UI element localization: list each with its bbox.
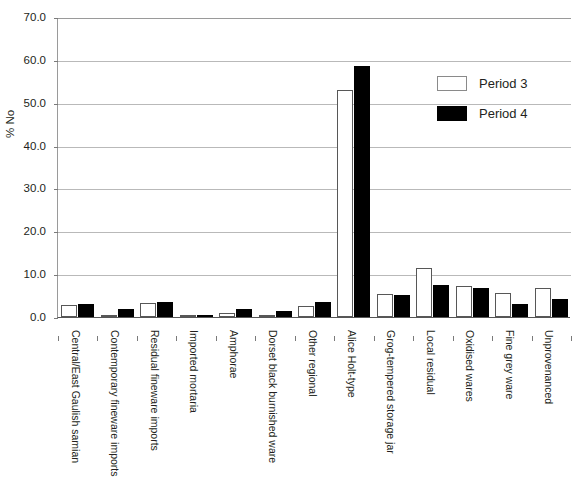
bar-period-3 [180,315,196,317]
y-axis-title: % No [4,110,16,138]
x-axis-category-label: Dorset black burnished ware [268,330,279,463]
gridline [58,232,571,233]
x-axis-tick-mark [58,336,59,341]
bar-period-4 [78,304,94,317]
y-axis-tick-mark [54,104,58,105]
bar-period-3 [298,306,314,317]
bar-period-4 [394,295,410,317]
x-axis-tick-mark [453,336,454,341]
y-axis-tick-mark [54,61,58,62]
gridline [58,189,571,190]
x-axis-category-label: Amphorae [228,330,239,378]
x-axis-tick-mark [492,336,493,341]
x-axis-tick-mark [374,336,375,341]
x-axis-category-label: Other regional [307,330,318,397]
x-axis-category-label: Central/East Gaulish samian [70,330,81,463]
y-axis-tick-label: 20.0 [0,226,46,238]
bar-period-4 [433,285,449,317]
bar-period-4 [236,309,252,317]
x-axis-category-label: Fine grey ware [504,330,515,399]
bar-chart: % No 0.010.020.030.040.050.060.070.0 Per… [0,0,577,484]
y-axis-tick-label: 0.0 [0,312,46,324]
bar-period-3 [416,268,432,317]
bar-period-4 [197,315,213,317]
bar-period-3 [456,286,472,317]
bar-period-4 [473,288,489,317]
y-axis-tick-label: 40.0 [0,141,46,153]
x-axis-tick-mark [413,336,414,341]
x-axis-category-label: Residual fineware imports [149,330,160,451]
bar-period-3 [377,294,393,317]
y-axis-tick-mark [54,18,58,19]
bar-period-3 [535,288,551,317]
y-axis-tick-mark [54,232,58,233]
bar-period-3 [101,315,117,317]
y-axis-tick-label: 30.0 [0,183,46,195]
chart-legend: Period 3 Period 4 [437,68,527,128]
legend-swatch-period-3 [437,76,467,91]
y-axis-tick-label: 60.0 [0,55,46,67]
bar-period-4 [512,304,528,317]
y-axis-tick-mark [54,275,58,276]
bar-period-4 [118,309,134,317]
bar-period-4 [552,299,568,317]
x-axis-tick-mark [295,336,296,341]
gridline [58,18,571,19]
legend-label-period-4: Period 4 [479,106,527,121]
x-axis-category-label: Unprovenanced [544,330,555,404]
x-axis-tick-mark [176,336,177,341]
x-axis-tick-mark [97,336,98,341]
x-axis-category-label: Contemporary fineware imports [110,330,121,476]
legend-item-period-4: Period 4 [437,98,527,128]
bar-period-3 [219,313,235,317]
bar-period-4 [354,66,370,317]
y-axis-tick-label: 10.0 [0,269,46,281]
y-axis-tick-label: 70.0 [0,12,46,24]
legend-item-period-3: Period 3 [437,68,527,98]
x-axis-tick-mark [334,336,335,341]
x-axis-tick-mark [216,336,217,341]
gridline [58,61,571,62]
legend-swatch-period-4 [437,106,467,121]
x-axis-tick-mark [137,336,138,341]
x-axis-category-label: Local residual [425,330,436,395]
x-axis-category-label: Oxidised wares [465,330,476,402]
bar-period-3 [140,303,156,317]
bar-period-3 [495,293,511,317]
x-axis-tick-mark [255,336,256,341]
x-axis-category-label: Alice Holt-type [346,330,357,398]
x-axis-category-label: Grog-tempered storage jar [386,330,397,454]
bar-period-3 [61,305,77,317]
bar-period-3 [337,90,353,317]
plot-area: 0.010.020.030.040.050.060.070.0 [57,18,570,318]
bar-period-3 [259,315,275,317]
x-axis-category-label: Imported mortaria [189,330,200,413]
bar-period-4 [276,311,292,317]
gridline [58,275,571,276]
bar-period-4 [157,302,173,317]
y-axis-tick-label: 50.0 [0,98,46,110]
x-axis-tick-mark [571,336,572,341]
y-axis-tick-mark [54,189,58,190]
legend-label-period-3: Period 3 [479,76,527,91]
x-axis-tick-mark [532,336,533,341]
y-axis-tick-mark [54,147,58,148]
y-axis-tick-mark [54,318,58,319]
gridline [58,147,571,148]
bar-period-4 [315,302,331,317]
